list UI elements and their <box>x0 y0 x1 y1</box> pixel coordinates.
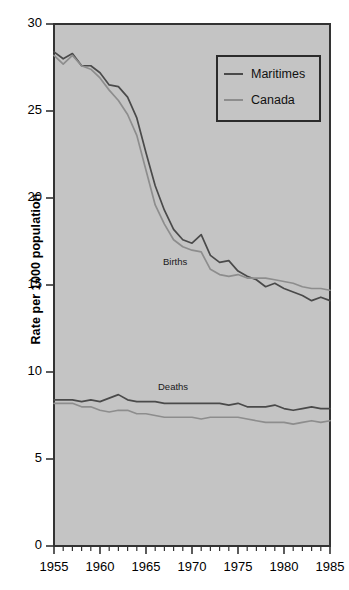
y-tick-label-30: 30 <box>12 15 42 30</box>
annotation-births: Births <box>163 256 187 267</box>
annotation-deaths: Deaths <box>158 381 188 392</box>
series-line-canada-deaths <box>54 403 330 424</box>
x-axis-ticks <box>54 546 330 554</box>
x-tick-label-1975: 1975 <box>216 559 260 574</box>
y-tick-label-25: 25 <box>12 102 42 117</box>
legend-label-maritimes: Maritimes <box>251 67 305 81</box>
legend-label-canada: Canada <box>251 93 295 107</box>
y-tick-label-5: 5 <box>12 450 42 465</box>
x-tick-label-1965: 1965 <box>124 559 168 574</box>
legend-item-canada: Canada <box>224 92 295 108</box>
x-tick-label-1985: 1985 <box>308 559 349 574</box>
x-tick-label-1960: 1960 <box>78 559 122 574</box>
legend-line-swatch-maritimes <box>224 73 243 75</box>
y-tick-label-10: 10 <box>12 363 42 378</box>
chart-legend: Maritimes Canada <box>216 55 321 122</box>
y-tick-label-15: 15 <box>12 276 42 291</box>
y-axis-ticks <box>46 24 54 546</box>
y-tick-label-20: 20 <box>12 189 42 204</box>
x-tick-label-1970: 1970 <box>170 559 214 574</box>
legend-line-swatch-canada <box>224 99 243 101</box>
y-tick-label-0: 0 <box>12 537 42 552</box>
legend-item-maritimes: Maritimes <box>224 66 305 82</box>
x-tick-label-1955: 1955 <box>32 559 76 574</box>
x-tick-label-1980: 1980 <box>262 559 306 574</box>
